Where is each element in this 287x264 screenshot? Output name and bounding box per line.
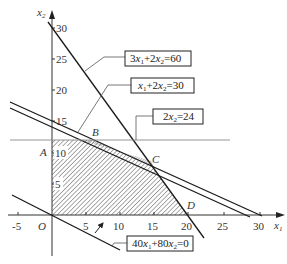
objective-label: 40x1+80x2=0 — [132, 237, 189, 251]
x-axis-arrow-icon — [276, 212, 285, 218]
x-tick-label: 20 — [181, 220, 193, 232]
objective-direction-arrow-icon — [95, 223, 103, 233]
x-tick-label: -5 — [12, 220, 22, 232]
x-tick-label: 30 — [253, 220, 265, 232]
x-tick-label: 15 — [147, 220, 159, 232]
point-a-label: A — [39, 146, 47, 158]
x-tick-label: 10 — [113, 220, 125, 232]
y-tick-label: 10 — [55, 147, 67, 159]
leader-objective — [112, 243, 127, 246]
diagram-svg: -5 5 10 15 20 25 30 5 10 15 20 25 30 x2 … — [0, 0, 287, 264]
constraint-label-3x1-2x2-60: 3x1+2x2=60 — [130, 52, 182, 66]
leader-3x1 — [85, 57, 125, 71]
y-tick-label: 25 — [56, 53, 68, 65]
origin-label: O — [38, 220, 46, 232]
x-tick-label: 5 — [83, 220, 89, 232]
y-tick-label: 20 — [56, 84, 68, 96]
y-axis-label: x2 — [36, 6, 46, 20]
x-axis-label: x1 — [273, 219, 282, 233]
lp-diagram: -5 5 10 15 20 25 30 5 10 15 20 25 30 x2 … — [0, 0, 287, 264]
point-d-label: D — [186, 199, 195, 211]
leader-2x2 — [136, 116, 153, 140]
x-tick-label: 25 — [217, 220, 229, 232]
y-axis-arrow-icon — [49, 10, 55, 19]
point-c-label: C — [152, 153, 160, 165]
y-tick-label: 30 — [56, 22, 68, 34]
y-tick-label: 5 — [55, 178, 61, 190]
constraint-label-2x2-24: 2x2=24 — [163, 110, 195, 124]
point-b-label: B — [92, 126, 99, 138]
